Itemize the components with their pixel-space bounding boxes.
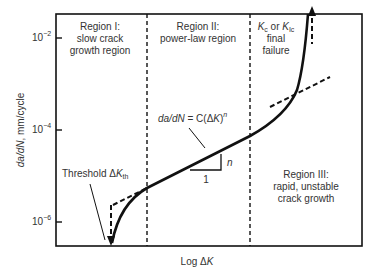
svg-text:Region II:: Region II:: [177, 21, 220, 32]
threshold-arrow-icon: [107, 236, 115, 246]
region-2-label: Region II: power-law region: [160, 21, 236, 44]
slope-run-label: 1: [203, 174, 209, 185]
svg-text:failure: failure: [262, 45, 290, 56]
slope-rise-label: n: [227, 157, 233, 168]
slope-triangle: [190, 154, 221, 170]
y-axis-label: da/dN, mm/cycle: [15, 92, 26, 167]
region-3-label: Region III: rapid, unstable crack growth: [273, 169, 339, 204]
svg-text:Kc or KIc: Kc or KIc: [258, 21, 295, 33]
svg-text:power-law region: power-law region: [160, 33, 236, 44]
svg-text:rapid, unstable: rapid, unstable: [273, 181, 339, 192]
y-tick-label-1e-6: 10−6: [32, 214, 51, 227]
y-tick-label-1e-2: 10−2: [32, 30, 51, 43]
equation-leader-line: [189, 128, 205, 148]
y-tick-label-1e-4: 10−4: [32, 122, 51, 135]
svg-text:growth region: growth region: [70, 45, 131, 56]
svg-text:slow crack: slow crack: [77, 33, 125, 44]
svg-text:final: final: [267, 33, 285, 44]
power-law-equation: da/dN = C(ΔK)n: [158, 111, 227, 124]
failure-arrow-icon: [308, 6, 316, 16]
svg-text:Region I:: Region I:: [80, 21, 120, 32]
svg-text:crack growth: crack growth: [278, 193, 335, 204]
svg-text:Region III:: Region III:: [283, 169, 329, 180]
crack-growth-diagram: 10−2 10−4 10−6 da/dN, mm/cycle Log ΔK Re…: [0, 0, 365, 279]
region-1-label: Region I: slow crack growth region: [70, 21, 131, 56]
x-axis-label: Log ΔK: [181, 256, 215, 267]
final-failure-label: Kc or KIc final failure: [258, 21, 295, 56]
threshold-label: Threshold ΔKth: [62, 168, 129, 180]
threshold-leader-line: [90, 184, 105, 240]
